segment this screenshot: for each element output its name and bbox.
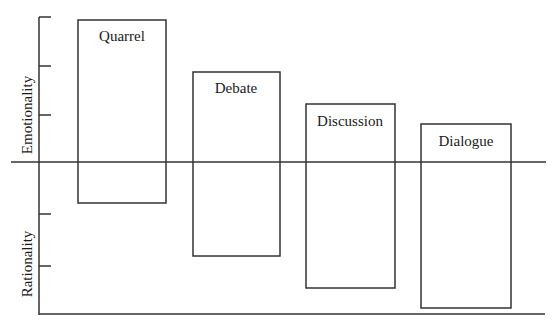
box-debate: Debate: [193, 72, 280, 256]
box-label: Dialogue: [439, 133, 494, 149]
box-label: Discussion: [317, 113, 383, 129]
y-lower-axis-label: Rationality: [19, 230, 35, 297]
box-quarrel: Quarrel: [78, 20, 166, 203]
box-label: Debate: [215, 80, 258, 96]
box-discussion: Discussion: [306, 104, 395, 288]
y-upper-axis-label: Emotionality: [19, 75, 35, 154]
box-dialogue: Dialogue: [421, 124, 511, 308]
y-axis-ticks: [39, 17, 51, 266]
box-label: Quarrel: [99, 28, 145, 44]
dialogue-types-diagram: Emotionality Rationality Quarrel Debate …: [0, 0, 559, 329]
